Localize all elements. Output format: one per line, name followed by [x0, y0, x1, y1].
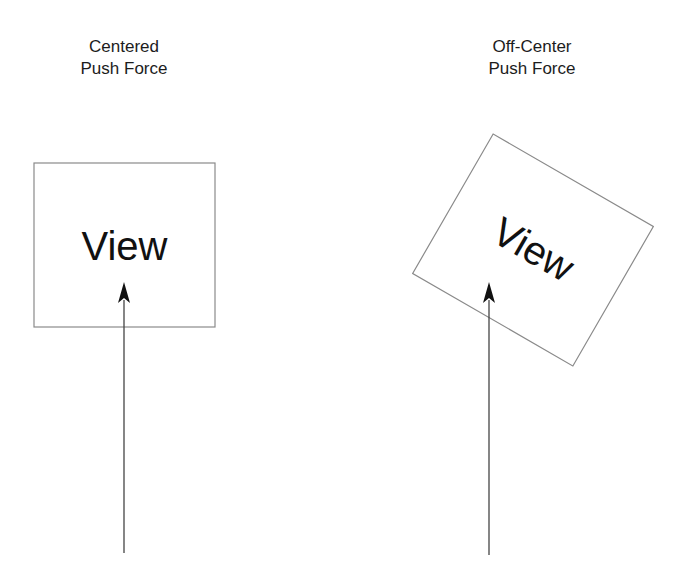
off-center-view-label: View — [485, 209, 582, 290]
off-center-panel: View — [413, 134, 654, 555]
centered-push-arrow — [118, 282, 130, 553]
push-force-diagram: View View — [0, 0, 674, 585]
centered-panel: View — [34, 163, 215, 553]
centered-arrowhead-icon — [118, 282, 130, 303]
off-center-push-arrow — [483, 282, 495, 555]
centered-view-label: View — [82, 224, 168, 268]
off-center-arrowhead-icon — [483, 282, 495, 303]
